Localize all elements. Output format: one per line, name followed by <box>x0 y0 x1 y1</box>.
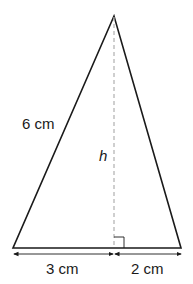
left-side-label: 6 cm <box>22 115 55 132</box>
base-left-label: 3 cm <box>46 260 79 277</box>
base-right-label: 2 cm <box>131 260 164 277</box>
triangle-outline <box>13 16 181 248</box>
right-angle-marker <box>114 237 124 248</box>
triangle-diagram: 6 cm h 3 cm 2 cm <box>0 0 193 284</box>
height-label: h <box>99 147 107 164</box>
